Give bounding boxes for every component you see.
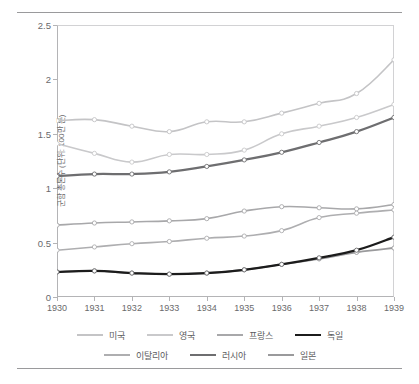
data-point-marker	[57, 223, 59, 227]
data-point-marker	[392, 102, 394, 106]
data-point-marker	[354, 211, 358, 215]
x-axis-tick-mark	[319, 297, 320, 301]
data-point-marker	[92, 245, 96, 249]
x-axis-tick-label: 1930	[47, 303, 67, 313]
data-point-marker	[57, 270, 59, 274]
x-axis-tick-mark	[244, 297, 245, 301]
legend-row-1: 미국영국프랑스독일	[0, 325, 419, 345]
data-point-marker	[205, 217, 209, 221]
data-point-marker	[392, 246, 394, 250]
data-point-marker	[280, 262, 284, 266]
series-line	[57, 117, 394, 176]
series-line	[57, 210, 394, 250]
data-point-marker	[205, 236, 209, 240]
figure: 군함 총톤수 (단위: 100만 톤) 00.511.522.519301931…	[0, 0, 419, 384]
legend-swatch-icon	[77, 334, 103, 336]
data-point-marker	[205, 152, 209, 156]
data-point-marker	[130, 172, 134, 176]
data-point-marker	[280, 132, 284, 136]
data-point-marker	[205, 120, 209, 124]
data-point-marker	[167, 219, 171, 223]
data-point-marker	[167, 170, 171, 174]
legend-label: 독일	[327, 329, 343, 342]
chart-series-layer	[57, 25, 394, 297]
series-line	[57, 248, 394, 274]
data-point-marker	[92, 118, 96, 122]
data-point-marker	[392, 208, 394, 212]
legend-label: 이탈리아	[136, 349, 168, 362]
x-axis-tick-label: 1938	[347, 303, 367, 313]
data-point-marker	[354, 130, 358, 134]
legend-item-독일[interactable]: 독일	[295, 329, 343, 342]
y-axis-tick-label: 1	[46, 183, 51, 194]
data-point-marker	[392, 58, 394, 62]
y-axis-tick-mark	[53, 25, 57, 26]
data-point-marker	[130, 220, 134, 224]
data-point-marker	[242, 148, 246, 152]
data-point-marker	[392, 115, 394, 119]
top-divider-rule	[17, 12, 402, 13]
series-러시아	[57, 115, 394, 178]
data-point-marker	[167, 130, 171, 134]
legend-swatch-icon	[104, 354, 130, 356]
data-point-marker	[317, 101, 321, 105]
data-point-marker	[392, 202, 394, 206]
legend-swatch-icon	[147, 334, 173, 336]
x-axis-tick-mark	[282, 297, 283, 301]
legend-item-프랑스[interactable]: 프랑스	[217, 329, 273, 342]
data-point-marker	[317, 206, 321, 210]
data-point-marker	[242, 158, 246, 162]
y-axis-tick-mark	[53, 188, 57, 189]
series-line	[57, 237, 394, 274]
data-point-marker	[354, 248, 358, 252]
data-point-marker	[280, 229, 284, 233]
data-point-marker	[354, 115, 358, 119]
legend-item-러시아[interactable]: 러시아	[190, 349, 246, 362]
series-미국	[57, 58, 394, 134]
bottom-divider-rule	[17, 368, 402, 369]
data-point-marker	[205, 164, 209, 168]
legend-item-영국[interactable]: 영국	[147, 329, 195, 342]
x-axis-tick-label: 1933	[159, 303, 179, 313]
data-point-marker	[392, 235, 394, 239]
data-point-marker	[280, 111, 284, 115]
x-axis-tick-mark	[94, 297, 95, 301]
data-point-marker	[317, 140, 321, 144]
legend-item-미국[interactable]: 미국	[77, 329, 125, 342]
y-axis-tick-label: 0	[46, 292, 51, 303]
x-axis-tick-label: 1934	[197, 303, 217, 313]
legend-label: 러시아	[222, 349, 246, 362]
data-point-marker	[92, 172, 96, 176]
legend-item-일본[interactable]: 일본	[268, 349, 316, 362]
chart-legend: 미국영국프랑스독일이탈리아러시아일본	[0, 325, 419, 365]
x-axis-tick-mark	[57, 297, 58, 301]
data-point-marker	[130, 242, 134, 246]
data-point-marker	[92, 221, 96, 225]
x-axis-tick-label: 1939	[384, 303, 404, 313]
legend-swatch-icon	[268, 354, 294, 356]
data-point-marker	[57, 248, 59, 252]
legend-row-2: 이탈리아러시아일본	[0, 345, 419, 365]
y-axis-tick-mark	[53, 243, 57, 244]
series-독일	[57, 235, 394, 276]
data-point-marker	[130, 271, 134, 275]
y-axis-tick-label: 0.5	[38, 237, 51, 248]
data-point-marker	[317, 215, 321, 219]
y-axis-tick-label: 1.5	[38, 128, 51, 139]
data-point-marker	[130, 160, 134, 164]
data-point-marker	[92, 151, 96, 155]
y-axis-tick-mark	[53, 79, 57, 80]
data-point-marker	[205, 271, 209, 275]
series-line	[57, 104, 394, 162]
x-axis-tick-label: 1932	[122, 303, 142, 313]
data-point-marker	[57, 174, 59, 178]
legend-item-이탈리아[interactable]: 이탈리아	[104, 349, 168, 362]
x-axis-tick-mark	[357, 297, 358, 301]
legend-label: 미국	[109, 329, 125, 342]
data-point-marker	[354, 91, 358, 95]
plot-area: 군함 총톤수 (단위: 100만 톤) 00.511.522.519301931…	[57, 25, 394, 297]
data-point-marker	[167, 239, 171, 243]
data-point-marker	[130, 124, 134, 128]
data-point-marker	[280, 205, 284, 209]
x-axis-tick-label: 1937	[309, 303, 329, 313]
